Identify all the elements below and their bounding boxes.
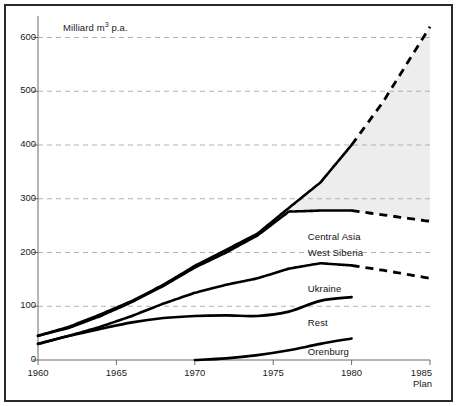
y-axis-tick-100: 100: [6, 299, 36, 310]
chart-frame: Milliard m3 p.a.: [4, 4, 453, 402]
x-axis-tick-1975: 1975: [250, 367, 296, 378]
series-label-orenburg: Orenburg: [308, 346, 349, 357]
x-axis-tick-1965: 1965: [93, 367, 139, 378]
y-axis-tick-500: 500: [6, 84, 36, 95]
chart-figure: Milliard m3 p.a.: [0, 0, 457, 406]
x-axis-tick-1980: 1980: [329, 367, 375, 378]
series-label-west-siberia: West Siberia: [308, 247, 363, 258]
series-line-dashed-forecast: [352, 265, 430, 278]
shaded-band-west-siberia: [258, 27, 430, 236]
x-axis-tick-1960: 1960: [15, 367, 61, 378]
x-axis-tick-marks: [38, 360, 430, 365]
y-axis-tick-200: 200: [6, 246, 36, 257]
x-axis-tick-1970: 1970: [172, 367, 218, 378]
y-axis-tick-600: 600: [6, 31, 36, 42]
chart-plot-area: [6, 6, 455, 404]
x-axis-tick-1985: 1985: [392, 367, 432, 378]
series-label-central-asia: Central Asia: [308, 231, 361, 242]
x-axis-plan-note: Plan: [392, 378, 432, 389]
series-ukraine: [38, 263, 430, 344]
series-label-ukraine: Ukraine: [308, 283, 342, 294]
y-axis-tick-400: 400: [6, 138, 36, 149]
y-axis-tick-0: 0: [6, 353, 36, 364]
y-axis-tick-300: 300: [6, 192, 36, 203]
series-central-asia: [38, 211, 430, 336]
series-label-rest: Rest: [308, 317, 328, 328]
